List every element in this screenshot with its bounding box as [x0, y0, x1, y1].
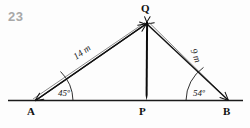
vertex-label-Q: Q [141, 3, 150, 14]
side-AQ [33, 23, 146, 101]
vertex-label-B: B [223, 106, 230, 117]
angle-label-A: 45º [58, 89, 70, 98]
angle-label-B: 54º [193, 89, 205, 98]
altitude-QP [146, 22, 149, 101]
figure-canvas [0, 0, 250, 128]
vertex-label-P: P [139, 106, 146, 117]
vertex-label-A: A [27, 106, 35, 117]
geometry-figure: 23 [0, 0, 250, 128]
